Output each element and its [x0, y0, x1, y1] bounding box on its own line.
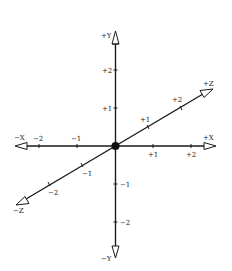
label-y-pos: +Y — [101, 32, 112, 40]
label-y-neg: −Y — [101, 255, 112, 263]
tick-label-z: +1 — [140, 116, 150, 124]
tick-label-x: −1 — [71, 135, 81, 143]
tick-label-z: +2 — [172, 96, 182, 104]
tick-label-x: −2 — [33, 135, 43, 143]
tick-label-y: +2 — [102, 67, 112, 75]
tick-label-y: +1 — [102, 105, 112, 113]
arrow-y-neg-icon — [112, 246, 119, 258]
tick-label-y: −2 — [120, 219, 130, 227]
coordinate-axes-diagram: +Y −Y +X −X +Z −Z +2 +1 −1 −2 −2 −1 +1 +… — [0, 0, 232, 271]
label-x-neg: −X — [14, 134, 25, 142]
arrow-z-pos-icon — [200, 89, 213, 98]
label-z-neg: −Z — [13, 207, 24, 215]
tick-label-x: +2 — [186, 151, 196, 159]
origin-point — [112, 142, 120, 150]
tick-label-y: −1 — [120, 181, 130, 189]
arrow-y-pos-icon — [112, 31, 119, 44]
tick-label-x: +1 — [148, 151, 158, 159]
tick-label-z: −1 — [82, 170, 92, 178]
arrow-x-neg-icon — [15, 143, 27, 150]
label-z-pos: +Z — [203, 80, 214, 88]
arrow-x-pos-icon — [204, 143, 216, 150]
label-x-pos: +X — [203, 134, 214, 142]
tick-label-z: −2 — [48, 189, 58, 197]
